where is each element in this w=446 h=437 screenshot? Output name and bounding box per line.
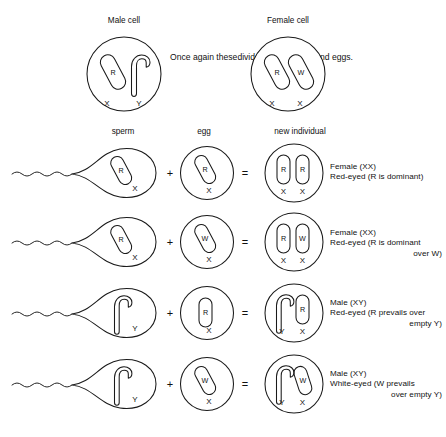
genetics-inheritance-diagram: Male cell Female cell sperm egg new indi… xyxy=(0,0,446,437)
sperm-cell-4: Y xyxy=(12,360,156,409)
offspring-chromosome-4b-allele: W xyxy=(300,376,307,385)
cross-caption-4-line-3: over empty Y) xyxy=(330,390,442,400)
egg-cell-4: W X xyxy=(181,358,234,411)
plus-operator-4: + xyxy=(167,378,173,390)
egg-chromosome-4-allele: W xyxy=(202,376,209,385)
sperm-axis-label-4: Y xyxy=(132,395,138,404)
cross-caption-4-line-2: White-eyed (W prevails xyxy=(330,379,442,389)
new-individual-membrane-4 xyxy=(265,355,323,413)
cross-caption-4: Male (XY)White-eyed (W prevailsover empt… xyxy=(330,369,442,400)
egg-axis-label-4: X xyxy=(206,397,212,406)
offspring-axis-label-4b: X xyxy=(300,398,306,407)
equals-operator-4: = xyxy=(242,378,248,390)
cross-caption-4-line-1: Male (XY) xyxy=(330,369,442,379)
offspring-axis-label-4a: Y xyxy=(279,398,285,407)
new-individual-cell-4: W Y X xyxy=(265,355,323,413)
